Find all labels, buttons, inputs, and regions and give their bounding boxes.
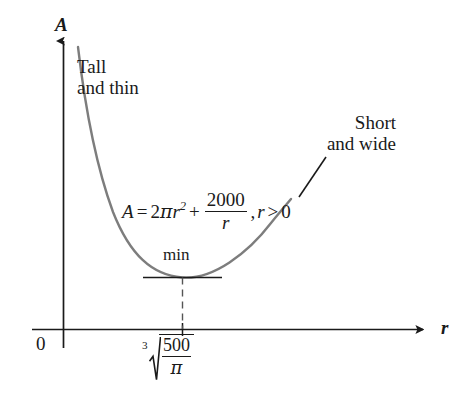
- tall-and-thin-line2: and thin: [77, 77, 139, 98]
- equation-domain-variable: r: [257, 201, 264, 222]
- equation-coefficient: 2: [150, 201, 160, 222]
- origin-label: 0: [36, 333, 46, 354]
- equation-domain-value: 0: [281, 201, 291, 222]
- cost-equation: A=2πr2+2000r,r>0: [122, 192, 291, 235]
- equation-pi: π: [160, 200, 173, 222]
- radical-index: 3: [142, 339, 148, 351]
- graph-figure: A r 0 Tall and thin Short and wide min A…: [0, 0, 473, 397]
- minimum-label: min: [163, 245, 189, 264]
- short-wide-leader-line: [299, 157, 326, 197]
- x-tick-label: 3 500π: [142, 334, 194, 379]
- radical-sign-icon: [149, 336, 161, 381]
- radical-fraction: 500π: [162, 336, 191, 378]
- equation-fraction-numerator: 2000: [205, 190, 247, 212]
- cube-root-expression: 3 500π: [142, 334, 194, 379]
- y-axis-label: A: [55, 14, 68, 35]
- equation-fraction-denominator: r: [205, 212, 247, 233]
- equation-plus: +: [186, 201, 203, 222]
- equation-lhs: A: [122, 201, 134, 222]
- tall-and-thin-line1: Tall: [77, 56, 139, 77]
- equation-variable: r: [172, 201, 179, 222]
- radical-fraction-numerator: 500: [162, 336, 191, 357]
- x-axis-label: r: [441, 317, 448, 338]
- equation-comma: ,: [249, 201, 258, 222]
- equation-equals: =: [134, 201, 151, 222]
- radical-body: 500π: [159, 334, 194, 379]
- tall-and-thin-annotation: Tall and thin: [77, 56, 139, 99]
- equation-domain-relation: >: [265, 201, 282, 222]
- short-and-wide-line2: and wide: [224, 133, 396, 154]
- radical-fraction-denominator: π: [162, 357, 191, 377]
- short-and-wide-annotation: Short and wide: [224, 112, 396, 155]
- equation-fraction: 2000r: [205, 190, 247, 233]
- short-and-wide-line1: Short: [224, 112, 396, 133]
